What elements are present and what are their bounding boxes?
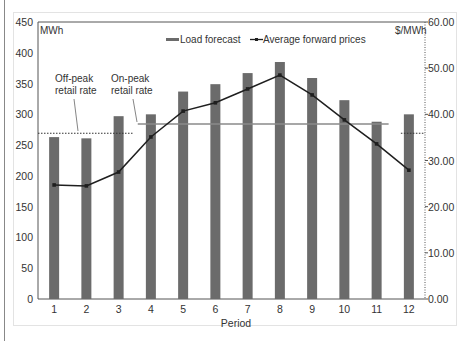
left-unit-label: MWh [40, 25, 63, 36]
y-right-tick-label: 50.00 [428, 62, 454, 74]
y-left-tick-label: 400 [15, 47, 33, 59]
bar-11 [372, 122, 382, 299]
bar-4 [146, 114, 156, 299]
legend-bar-swatch [166, 38, 179, 41]
offpeak-label-2: retail rate [55, 85, 97, 96]
y-right-tick-label: 10.00 [428, 247, 454, 259]
y-left-tick-label: 300 [15, 108, 33, 120]
x-tick-label: 7 [245, 303, 251, 315]
price-marker-1 [52, 183, 56, 187]
bar-10 [339, 100, 349, 299]
x-tick-label: 5 [180, 303, 186, 315]
x-tick-label: 2 [83, 303, 89, 315]
price-marker-9 [310, 93, 314, 97]
price-marker-11 [375, 142, 379, 146]
offpeak-arrow [74, 99, 78, 131]
x-tick-label: 10 [339, 303, 351, 315]
bar-8 [275, 62, 285, 299]
price-line [54, 75, 409, 186]
x-tick-label: 8 [277, 303, 283, 315]
y-right-tick-label: 30.00 [428, 155, 454, 167]
bar-7 [243, 73, 253, 299]
x-tick-label: 1 [51, 303, 57, 315]
x-tick-label: 11 [371, 303, 382, 315]
y-left-tick-label: 50 [21, 262, 33, 274]
price-marker-7 [246, 87, 250, 91]
price-marker-10 [343, 118, 347, 122]
price-marker-2 [85, 184, 89, 188]
y-left-tick-label: 100 [15, 231, 33, 243]
x-tick-label: 9 [309, 303, 315, 315]
y-right-tick-label: 0.00 [428, 293, 449, 305]
legend-line-marker [255, 38, 258, 41]
x-axis-label: Period [221, 317, 252, 329]
chart-svg: 0501001502002503003504004500.0010.0020.0… [0, 0, 467, 341]
onpeak-label-2: retail rate [111, 85, 153, 96]
y-right-tick-label: 40.00 [428, 108, 454, 120]
x-tick-label: 4 [148, 303, 154, 315]
right-unit-label: $/MWh [395, 25, 427, 36]
y-left-tick-label: 350 [15, 78, 33, 90]
price-marker-12 [407, 168, 411, 172]
plot-area: 0501001502002503003504004500.0010.0020.0… [15, 16, 454, 315]
bar-9 [307, 78, 317, 299]
x-tick-label: 3 [116, 303, 122, 315]
x-tick-label: 12 [403, 303, 415, 315]
legend: Load forecast Average forward prices [166, 34, 366, 45]
price-marker-8 [278, 73, 282, 77]
bar-6 [210, 84, 220, 299]
y-left-tick-label: 450 [15, 16, 33, 28]
price-marker-6 [214, 101, 218, 105]
price-marker-3 [117, 170, 121, 174]
y-right-tick-label: 60.00 [428, 16, 454, 28]
price-marker-4 [149, 135, 153, 139]
legend-line-label: Average forward prices [263, 34, 366, 45]
legend-bar-label: Load forecast [180, 34, 241, 45]
y-left-tick-label: 0 [27, 293, 33, 305]
bar-1 [49, 137, 59, 299]
bar-12 [404, 114, 414, 299]
bar-2 [81, 138, 91, 299]
annotation-offpeak: Off-peak retail rate [55, 73, 97, 131]
y-right-tick-label: 20.00 [428, 201, 454, 213]
onpeak-label-1: On-peak [111, 73, 150, 84]
x-tick-label: 6 [212, 303, 218, 315]
y-left-tick-label: 200 [15, 170, 33, 182]
price-marker-5 [181, 109, 185, 113]
bar-3 [114, 116, 124, 299]
onpeak-arrow [133, 99, 137, 122]
bar-5 [178, 92, 188, 299]
y-left-tick-label: 250 [15, 139, 33, 151]
y-left-tick-label: 150 [15, 201, 33, 213]
offpeak-label-1: Off-peak [55, 73, 94, 84]
